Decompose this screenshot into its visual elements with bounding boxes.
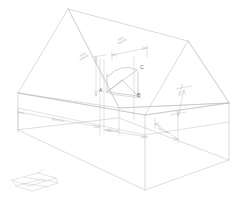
point-label-a: A bbox=[99, 88, 102, 93]
truss-diagonal-3 bbox=[107, 80, 122, 92]
point-label-b: B bbox=[137, 93, 140, 98]
dim-arrow-bay-r bbox=[141, 136, 147, 138]
detail-plate-outline-1 bbox=[12, 173, 56, 186]
interior-truss bbox=[107, 67, 141, 98]
wall-top-plate bbox=[18, 93, 229, 115]
truss-diagonal-2 bbox=[122, 80, 138, 96]
detail-plate-rib-2 bbox=[22, 183, 48, 187]
point-label-c: C bbox=[140, 65, 144, 70]
roof-ridge bbox=[68, 9, 188, 41]
base-plate-detail bbox=[12, 169, 58, 191]
truss-frame-verticals bbox=[100, 57, 134, 135]
detail-plate-outline-2 bbox=[16, 179, 58, 191]
dim-ext-left-top bbox=[92, 55, 106, 57]
wall-band-left bbox=[18, 108, 145, 135]
wireframe-svg bbox=[0, 0, 237, 199]
roof-edge-back-left bbox=[68, 9, 119, 108]
dimension-lines bbox=[18, 45, 192, 143]
dim-arrow-rl-l bbox=[155, 123, 160, 126]
floor-outline bbox=[18, 118, 229, 190]
building-roof bbox=[18, 9, 229, 115]
building-walls bbox=[18, 93, 229, 190]
detail-plate-edge-2 bbox=[56, 178, 58, 183]
right-gable-outline bbox=[145, 41, 229, 115]
dim-arrow-top-right bbox=[142, 47, 147, 50]
cad-drawing-canvas: A B C 1500 (typical) 1840 (typical) 9250… bbox=[0, 0, 237, 199]
roof-edge-back-right bbox=[188, 41, 229, 103]
dim-line-top-span bbox=[112, 48, 147, 55]
truss-curved-chord bbox=[107, 67, 137, 77]
detail-plate-leader bbox=[38, 169, 44, 173]
